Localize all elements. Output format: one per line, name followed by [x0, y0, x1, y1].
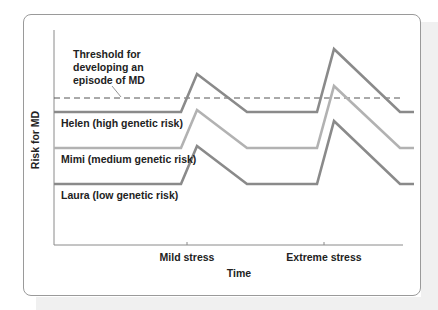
x-axis-label: Time — [227, 267, 251, 279]
series-label-helen: Helen (high genetic risk) — [61, 117, 183, 129]
x-tick-label-mild: Mild stress — [160, 251, 215, 263]
series-label-laura: Laura (low genetic risk) — [61, 189, 178, 201]
chart: Threshold for developing an episode of M… — [0, 0, 438, 310]
threshold-label: Threshold for developing an episode of M… — [73, 48, 147, 86]
series-label-mimi: Mimi (medium genetic risk) — [61, 153, 196, 165]
threshold-leader-line — [112, 86, 121, 97]
x-tick-label-extreme: Extreme stress — [286, 251, 361, 263]
y-axis-label: Risk for MD — [29, 110, 41, 169]
